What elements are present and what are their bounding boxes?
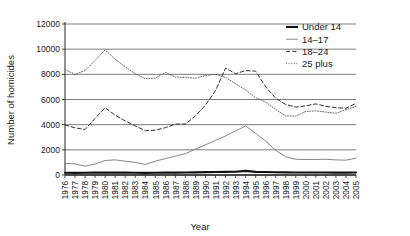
y-tick-label-12000: 12000 xyxy=(36,19,60,29)
y-tick-label-0: 0 xyxy=(55,170,60,180)
y-axis-title: Number of homicides xyxy=(5,55,16,145)
series-line-under-14 xyxy=(65,171,356,173)
chart-container: 020004000600080001000012000 197619771978… xyxy=(0,0,410,236)
x-tick-label-2004: 2004 xyxy=(342,181,351,200)
x-tick-label-1980: 1980 xyxy=(101,181,110,200)
y-tick-label-10000: 10000 xyxy=(36,44,60,54)
x-tick-label-1995: 1995 xyxy=(252,181,261,200)
y-tick-label-2000: 2000 xyxy=(41,145,60,155)
x-tick-label-1985: 1985 xyxy=(152,181,161,200)
x-tick-label-1991: 1991 xyxy=(212,181,221,200)
x-tick-label-1981: 1981 xyxy=(111,181,120,200)
x-tick-label-1996: 1996 xyxy=(262,181,271,200)
x-tick-label-1977: 1977 xyxy=(71,181,80,200)
x-tick-label-1988: 1988 xyxy=(182,181,191,200)
y-tick-label-8000: 8000 xyxy=(41,69,60,79)
x-tick-label-2000: 2000 xyxy=(302,181,311,200)
x-tick-label-1983: 1983 xyxy=(131,181,140,200)
x-tick-label-2002: 2002 xyxy=(322,181,331,200)
x-tick-label-2005: 2005 xyxy=(352,181,361,200)
x-tick-label-1987: 1987 xyxy=(172,181,181,200)
x-tick-label-1999: 1999 xyxy=(292,181,301,200)
y-tick-label-6000: 6000 xyxy=(41,95,60,105)
legend-label-14-17: 14–17 xyxy=(302,34,328,45)
x-tick-label-1984: 1984 xyxy=(141,181,150,200)
legend-label-under-14: Under 14 xyxy=(302,21,341,32)
x-tick-label-1997: 1997 xyxy=(272,181,281,200)
x-tick-label-1978: 1978 xyxy=(81,181,90,200)
x-tick-label-1998: 1998 xyxy=(282,181,291,200)
x-axis-title: Year xyxy=(190,221,209,232)
x-tick-label-1993: 1993 xyxy=(232,181,241,200)
y-tick-label-4000: 4000 xyxy=(41,120,60,130)
legend-group: Under 1414–1718–2425 plus xyxy=(286,21,341,69)
legend-label-18-24: 18–24 xyxy=(302,46,328,57)
y-tick-labels-group: 020004000600080001000012000 xyxy=(36,19,60,180)
x-tick-label-1979: 1979 xyxy=(91,181,100,200)
x-tick-label-1990: 1990 xyxy=(202,181,211,200)
x-tick-label-1982: 1982 xyxy=(121,181,130,200)
series-line-14-17 xyxy=(65,126,356,166)
x-tick-label-1992: 1992 xyxy=(222,181,231,200)
x-tick-labels-group: 1976197719781979198019811982198319841985… xyxy=(61,181,361,200)
x-tick-label-2003: 2003 xyxy=(332,181,341,200)
x-tick-label-1986: 1986 xyxy=(162,181,171,200)
x-tick-label-1976: 1976 xyxy=(61,181,70,200)
x-tick-label-1989: 1989 xyxy=(192,181,201,200)
legend-label-25-plus: 25 plus xyxy=(302,58,333,69)
x-tick-label-2001: 2001 xyxy=(312,181,321,200)
line-chart-svg: 020004000600080001000012000 197619771978… xyxy=(0,0,410,236)
x-tick-label-1994: 1994 xyxy=(242,181,251,200)
